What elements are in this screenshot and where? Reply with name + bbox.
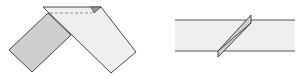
right-straight-strip (175, 15, 295, 57)
diagram-canvas (0, 0, 302, 81)
left-folded-strip (9, 7, 136, 73)
diagram-svg (0, 0, 302, 81)
